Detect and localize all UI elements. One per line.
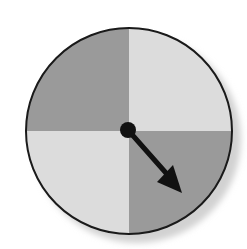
spinner-figure [0, 0, 247, 249]
section-top-left [20, 20, 129, 131]
pivot-dot [120, 122, 136, 138]
section-bottom-left [20, 131, 129, 246]
section-top-right [129, 20, 239, 131]
